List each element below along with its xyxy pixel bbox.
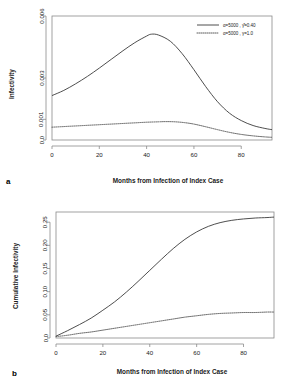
panel-a-x-axis-title: Months from Infection of Index Case bbox=[113, 177, 224, 184]
x-tick-label: 80 bbox=[240, 349, 247, 356]
panel-b-x-axis-title: Months from Infection of Index Case bbox=[117, 368, 228, 375]
x-tick-label: 60 bbox=[193, 349, 200, 356]
legend-label: α=5000 , γ=1.0 bbox=[223, 31, 254, 36]
panel-a-y-axis-title: Infectivity bbox=[8, 69, 16, 99]
panel-b-y-axis-title: Cumulative Infectivity bbox=[12, 243, 20, 309]
y-tick-label: 0.001 bbox=[38, 111, 45, 127]
x-tick-label: 20 bbox=[99, 349, 106, 356]
series-curve-solid bbox=[52, 34, 272, 130]
x-tick-label: 60 bbox=[191, 151, 198, 158]
y-tick-label: 0.0 bbox=[38, 135, 45, 144]
legend-label: α=5000 , γ̂=0.40 bbox=[223, 23, 256, 28]
x-tick-label: 80 bbox=[238, 151, 245, 158]
x-tick-label: 0 bbox=[50, 151, 54, 158]
x-tick-label: 40 bbox=[146, 349, 153, 356]
y-tick-label: 0.05 bbox=[42, 308, 49, 320]
y-tick-label: 0.15 bbox=[42, 262, 49, 274]
panel-b: 0204060800.00.050.100.150.200.25 Cumulat… bbox=[0, 186, 285, 384]
panel-a-letter: a bbox=[6, 177, 11, 186]
y-tick-label: 0.25 bbox=[42, 216, 49, 228]
y-tick-label: 0.20 bbox=[42, 239, 49, 251]
y-tick-label: 0.006 bbox=[38, 8, 45, 24]
panel-b-letter: b bbox=[12, 369, 17, 378]
y-tick-label: 0.003 bbox=[38, 70, 45, 86]
x-tick-label: 20 bbox=[96, 151, 103, 158]
figure-container: 0204060800.00.0010.0030.006α=5000 , γ̂=0… bbox=[0, 0, 285, 384]
panel-a-plot: 0204060800.00.0010.0030.006α=5000 , γ̂=0… bbox=[0, 0, 285, 192]
series-curve-dotted bbox=[56, 312, 274, 337]
x-tick-label: 40 bbox=[143, 151, 150, 158]
series-curve-dotted bbox=[52, 122, 272, 138]
panel-b-plot: 0204060800.00.050.100.150.200.25 Cumulat… bbox=[0, 186, 285, 384]
x-tick-label: 0 bbox=[54, 349, 58, 356]
y-tick-label: 0.0 bbox=[42, 333, 49, 342]
series-curve-solid bbox=[56, 217, 274, 336]
y-tick-label: 0.10 bbox=[42, 285, 49, 297]
panel-a: 0204060800.00.0010.0030.006α=5000 , γ̂=0… bbox=[0, 0, 285, 192]
